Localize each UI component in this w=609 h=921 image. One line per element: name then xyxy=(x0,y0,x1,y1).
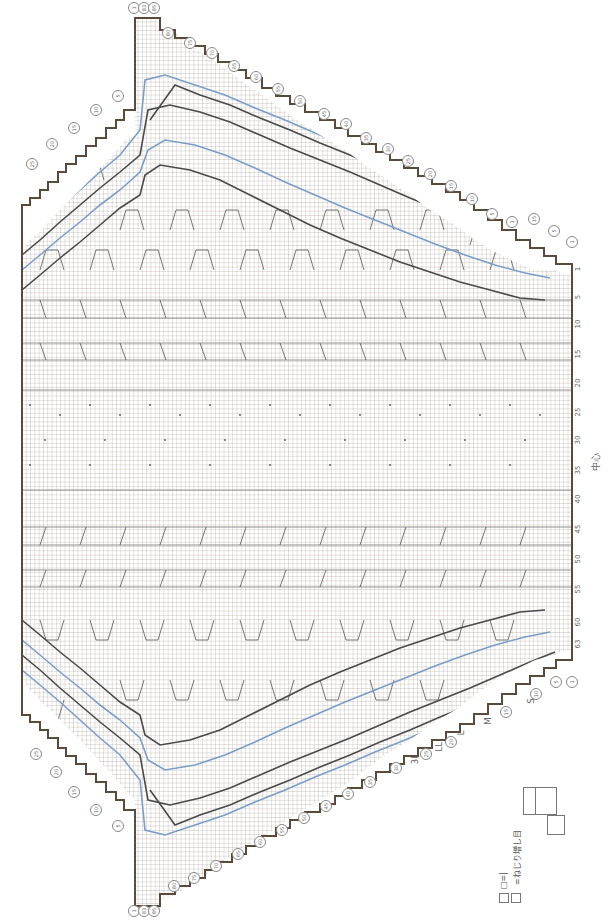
row-mark: 15 xyxy=(68,122,80,134)
row-mark: 1 xyxy=(566,676,578,688)
col-label: 63 xyxy=(574,640,582,649)
row-mark: 40 xyxy=(342,788,354,800)
row-mark: 30 xyxy=(390,762,402,774)
row-mark: 45 xyxy=(318,108,330,120)
row-mark: 20 xyxy=(445,736,457,748)
col-label: 50 xyxy=(574,555,582,564)
row-mark: 10 xyxy=(466,193,478,205)
col-label: 15 xyxy=(574,350,582,359)
row-mark: 5 xyxy=(548,225,560,237)
row-mark: 25 xyxy=(26,158,38,170)
row-mark: 65 xyxy=(232,848,244,860)
size-label-m: M xyxy=(483,717,493,725)
row-mark: 20 xyxy=(46,138,58,150)
row-mark: 1 xyxy=(506,216,518,228)
row-mark: 15 xyxy=(445,180,457,192)
row-mark: 25 xyxy=(30,748,42,760)
row-mark: 50 xyxy=(298,812,310,824)
legend: □=| =ねじり増し目 xyxy=(495,785,605,915)
row-mark: 25 xyxy=(420,748,432,760)
col-label: 35 xyxy=(574,466,582,475)
size-label-3l: 3L xyxy=(410,754,420,765)
row-mark: 65 xyxy=(228,60,240,72)
center-label: 中心 xyxy=(589,453,602,471)
row-mark: 85 xyxy=(148,2,160,14)
knitting-chart xyxy=(0,0,609,921)
row-mark: 35 xyxy=(360,132,372,144)
legend-bobble-icon xyxy=(547,815,565,835)
row-mark: 25 xyxy=(402,155,414,167)
row-mark: 55 xyxy=(276,824,288,836)
col-label: 40 xyxy=(574,495,582,504)
row-mark: 75 xyxy=(184,37,196,49)
row-mark: 20 xyxy=(424,168,436,180)
row-mark: 5 xyxy=(112,820,124,832)
row-mark: 55 xyxy=(272,83,284,95)
row-mark: 75 xyxy=(188,872,200,884)
row-mark: 60 xyxy=(254,836,266,848)
row-mark: 10 xyxy=(90,804,102,816)
row-mark: 80 xyxy=(162,27,174,39)
col-label: 45 xyxy=(574,525,582,534)
row-mark: 30 xyxy=(382,143,394,155)
legend-label-plain: □=| xyxy=(499,872,508,889)
size-label-ll: LL xyxy=(434,742,444,752)
legend-label-twist-increase: =ねじり増し目 xyxy=(511,830,522,885)
row-mark: 5 xyxy=(550,676,562,688)
col-label: 60 xyxy=(574,618,582,627)
col-label: 5 xyxy=(574,295,582,299)
row-mark: 70 xyxy=(206,47,218,59)
row-mark: 15 xyxy=(528,213,540,225)
legend-cable-right-icon xyxy=(535,787,557,815)
row-mark: 20 xyxy=(50,766,62,778)
row-mark: 50 xyxy=(294,95,306,107)
legend-plain-square xyxy=(499,893,509,903)
row-mark: 60 xyxy=(250,71,262,83)
col-label: 55 xyxy=(574,585,582,594)
row-mark: 45 xyxy=(320,800,332,812)
size-label-l: L xyxy=(456,730,466,735)
row-mark: 85 xyxy=(148,905,160,917)
col-label: 1 xyxy=(574,267,582,271)
row-mark: 5 xyxy=(486,208,498,220)
row-mark: 1 xyxy=(566,236,578,248)
col-label: 25 xyxy=(574,408,582,417)
col-label: 10 xyxy=(574,320,582,329)
row-mark: 40 xyxy=(340,118,352,130)
row-mark: 15 xyxy=(500,706,512,718)
row-mark: 70 xyxy=(210,860,222,872)
size-label-s: S xyxy=(526,698,536,704)
legend-twist-increase-icon xyxy=(511,893,521,903)
row-mark: 35 xyxy=(364,776,376,788)
row-mark: 10 xyxy=(90,104,102,116)
row-mark: 5 xyxy=(112,90,124,102)
row-mark: 80 xyxy=(168,880,180,892)
row-mark: 15 xyxy=(68,786,80,798)
col-label: 20 xyxy=(574,379,582,388)
col-label: 30 xyxy=(574,436,582,445)
